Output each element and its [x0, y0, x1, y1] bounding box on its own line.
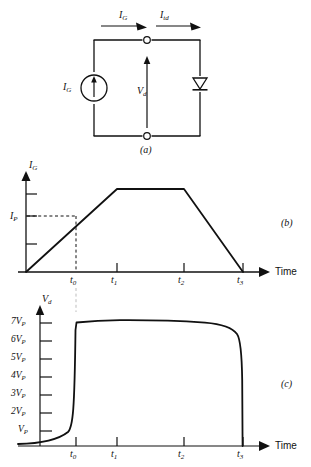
chart-c-xtick-t0: t0	[70, 449, 76, 461]
chart-c-xtick-t1: t1	[111, 449, 117, 461]
chart-c-ytick-7vp: 7VP	[11, 317, 26, 327]
chart-c-ytick-4vp: 4VP	[11, 371, 26, 381]
terminal-node-icon	[144, 37, 151, 44]
chart-c-x-arrow	[259, 441, 270, 451]
chart-b-waveform	[26, 189, 243, 272]
panel-label-a: (a)	[140, 144, 152, 155]
panel-label-c: (c)	[281, 378, 292, 389]
chart-c-waveform	[18, 320, 243, 446]
terminal-node-icon	[144, 133, 151, 140]
chart-c-ytick-5vp: 5VP	[11, 353, 26, 363]
chart-c-ytick-3vp: 3VP	[11, 389, 26, 399]
chart-c-ytick-vp: VP	[18, 425, 28, 435]
chart-b-y-ticks	[26, 194, 37, 244]
chart-b-y-arrow	[22, 171, 31, 181]
chart-c-y-ticks	[40, 323, 52, 431]
chart-b-x-ticks	[117, 263, 243, 272]
chart-b-x-arrow	[259, 267, 270, 277]
diode-icon	[193, 78, 208, 90]
chart-b-xtick-t0: t0	[70, 275, 76, 287]
itd-current-arrow-icon	[156, 23, 201, 31]
chart-b-x-axis-label: Time	[275, 266, 297, 277]
chart-b	[18, 171, 270, 277]
chart-b-xtick-t1: t1	[111, 275, 117, 287]
chart-c-xtick-t3: t3	[237, 449, 243, 461]
figure-container: IG Itd IG Vd (a) IG IP t0 t1 t2 t3 Time …	[0, 0, 311, 467]
chart-b-xtick-t2: t2	[178, 275, 184, 287]
chart-c-ytick-2vp: 2VP	[11, 407, 26, 417]
chart-b-y-axis-label: IG	[29, 160, 37, 172]
ig-current-arrow-icon	[101, 23, 147, 31]
chart-c-x-ticks	[76, 437, 243, 446]
current-source-icon	[81, 75, 107, 101]
page-header-artifact	[243, 0, 245, 6]
chart-c-y-axis-label: Vd	[42, 294, 52, 306]
chart-c-ytick-6vp: 6VP	[11, 335, 26, 345]
chart-c-x-axis-label: Time	[275, 440, 297, 451]
current-source-label: IG	[63, 82, 71, 94]
chart-c	[18, 288, 270, 451]
chart-b-xtick-t3: t3	[237, 275, 243, 287]
chart-c-xtick-t2: t2	[178, 449, 184, 461]
panel-label-b: (b)	[281, 217, 293, 228]
figure-svg	[0, 0, 311, 467]
itd-arrow-label: Itd	[160, 10, 169, 22]
chart-b-ip-label: IP	[10, 211, 18, 223]
ig-arrow-label: IG	[119, 10, 127, 22]
chart-c-y-arrow	[36, 305, 44, 315]
vd-label: Vd	[137, 86, 147, 98]
